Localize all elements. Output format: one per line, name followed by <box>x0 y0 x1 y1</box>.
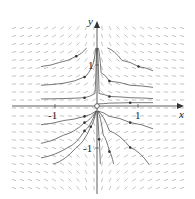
direction-arrow-icon <box>129 146 132 149</box>
direction-arrow-icon <box>108 95 111 98</box>
direction-field-plot: x y -1 1 1 -1 <box>0 0 195 199</box>
direction-arrow-icon <box>129 121 132 124</box>
y-tick-label-pos: 1 <box>88 59 94 71</box>
x-tick-label-neg: -1 <box>48 109 57 121</box>
direction-arrow-icon <box>83 115 86 118</box>
direction-arrow-icon <box>108 80 111 83</box>
solution-curve <box>98 111 153 129</box>
direction-arrow-icon <box>83 96 86 99</box>
direction-arrow-icon <box>83 130 86 133</box>
x-tick-label-pos: 1 <box>135 109 141 121</box>
direction-arrow-icon <box>83 76 86 79</box>
direction-arrow-icon <box>83 121 86 124</box>
y-axis-arrow-icon <box>94 21 100 28</box>
axes: x y -1 1 1 -1 <box>12 15 184 194</box>
direction-arrow-icon <box>98 138 101 141</box>
origin-marker <box>95 104 100 109</box>
solution-curve <box>97 48 153 99</box>
y-axis-label: y <box>87 15 93 27</box>
solution-curve <box>107 48 153 71</box>
solution-curve <box>98 103 153 104</box>
direction-arrow-icon <box>89 125 92 128</box>
x-axis-label: x <box>178 108 184 120</box>
direction-arrow-icon <box>129 101 132 104</box>
y-tick-label-neg: -1 <box>83 142 92 154</box>
direction-arrow-icon <box>137 65 140 68</box>
direction-arrow-icon <box>75 55 78 58</box>
direction-arrow-icon <box>108 150 111 153</box>
solution-curve <box>97 111 100 164</box>
